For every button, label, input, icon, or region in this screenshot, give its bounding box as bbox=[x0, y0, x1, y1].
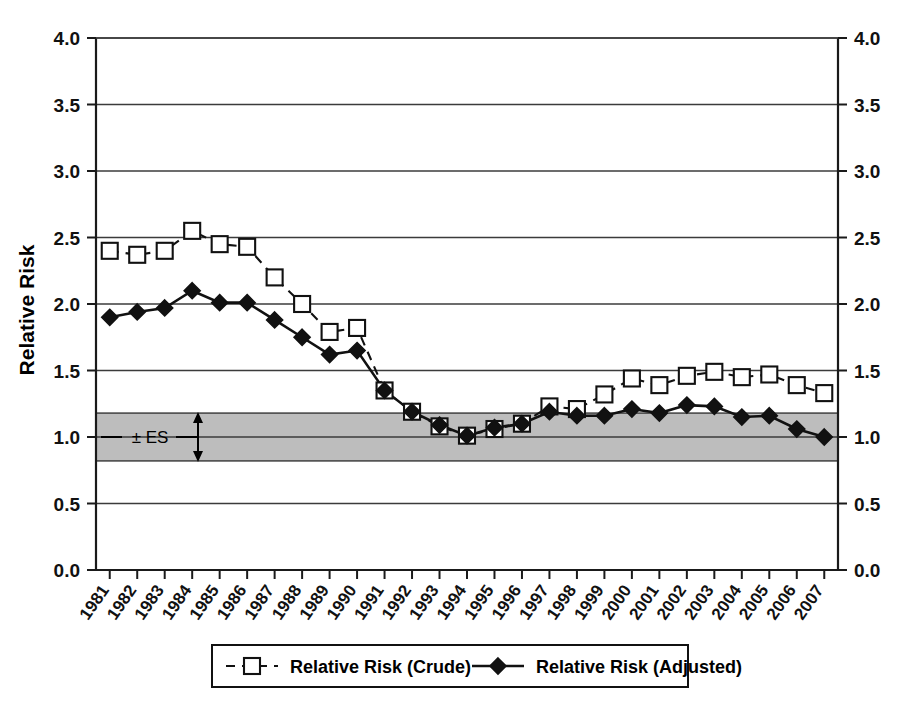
y-axis-title: Relative Risk bbox=[15, 244, 38, 375]
legend-label-adjusted: Relative Risk (Adjusted) bbox=[536, 657, 742, 677]
legend-label-crude: Relative Risk (Crude) bbox=[290, 657, 471, 677]
data-point-crude-1983 bbox=[157, 243, 173, 259]
y-tick-label-left-1.5: 1.5 bbox=[54, 361, 81, 382]
relative-risk-line-chart: 0.00.51.01.52.02.53.03.54.0 0.00.51.01.5… bbox=[0, 0, 899, 715]
y-tick-label-left-1: 1.0 bbox=[54, 427, 80, 448]
data-point-crude-2005 bbox=[761, 366, 777, 382]
y-tick-label-left-2.5: 2.5 bbox=[54, 228, 81, 249]
data-point-crude-1989 bbox=[322, 324, 338, 340]
data-point-crude-1986 bbox=[239, 239, 255, 255]
y-tick-label-left-0: 0.0 bbox=[54, 560, 80, 581]
data-point-crude-2007 bbox=[816, 385, 832, 401]
data-point-crude-1984 bbox=[184, 223, 200, 239]
y-tick-label-right-1.5: 1.5 bbox=[854, 361, 881, 382]
data-point-crude-1999 bbox=[596, 386, 612, 402]
data-point-crude-2002 bbox=[679, 368, 695, 384]
y-tick-label-right-3: 3.0 bbox=[854, 161, 880, 182]
y-tick-label-right-2.5: 2.5 bbox=[854, 228, 881, 249]
data-point-crude-2006 bbox=[789, 377, 805, 393]
data-point-crude-1985 bbox=[212, 236, 228, 252]
y-tick-label-left-0.5: 0.5 bbox=[54, 494, 81, 515]
y-tick-label-right-0.5: 0.5 bbox=[854, 494, 881, 515]
data-point-crude-1990 bbox=[349, 320, 365, 336]
y-tick-label-left-3.5: 3.5 bbox=[54, 95, 81, 116]
y-tick-label-right-3.5: 3.5 bbox=[854, 95, 881, 116]
data-point-crude-2001 bbox=[651, 377, 667, 393]
data-point-crude-1988 bbox=[294, 296, 310, 312]
y-tick-label-right-4: 4.0 bbox=[854, 28, 880, 49]
y-tick-label-left-4: 4.0 bbox=[54, 28, 80, 49]
es-band-label: ± ES bbox=[132, 428, 169, 447]
data-point-crude-1987 bbox=[267, 269, 283, 285]
data-point-crude-2003 bbox=[706, 364, 722, 380]
chart-figure: 0.00.51.01.52.02.53.03.54.0 0.00.51.01.5… bbox=[0, 0, 899, 715]
data-point-crude-1981 bbox=[102, 243, 118, 259]
y-tick-label-left-3: 3.0 bbox=[54, 161, 80, 182]
legend-marker-crude bbox=[244, 658, 260, 674]
y-tick-label-left-2: 2.0 bbox=[54, 294, 80, 315]
y-tick-label-right-2: 2.0 bbox=[854, 294, 880, 315]
y-tick-label-right-1: 1.0 bbox=[854, 427, 880, 448]
chart-legend: Relative Risk (Crude)Relative Risk (Adju… bbox=[212, 645, 742, 687]
data-point-crude-2004 bbox=[734, 369, 750, 385]
data-point-crude-2000 bbox=[624, 370, 640, 386]
data-point-crude-1982 bbox=[129, 247, 145, 263]
y-tick-label-right-0: 0.0 bbox=[854, 560, 880, 581]
